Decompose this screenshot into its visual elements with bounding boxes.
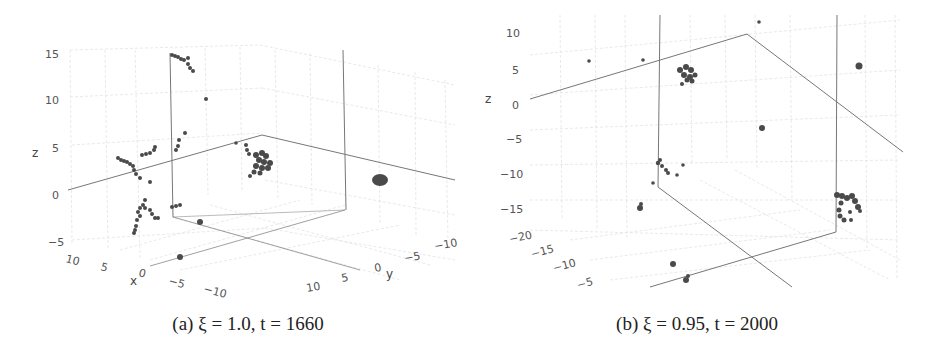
svg-text:−5: −5 [167,274,186,291]
z-axis-label: z [32,146,38,160]
svg-text:10: 10 [64,252,81,268]
z-axis-label: z [485,92,491,106]
z-axis-ticks: 15 10 5 0 −5 z [32,48,64,249]
y-axis-label: y [386,267,393,281]
caption-b: (b) ξ = 0.95, t = 2000 [470,313,924,335]
z-axis-ticks: 10 5 0 −5 −10 −15 −20 z [485,27,533,246]
svg-text:5: 5 [99,260,109,274]
axis-lines [530,15,903,287]
x-axis-label: x [130,274,137,288]
svg-text:−15: −15 [529,242,555,261]
scatter-3d-plot-b: 10 5 0 −5 −10 −15 −20 z −15 −10 −5 [470,0,938,300]
plot-panel-a: 15 10 5 0 −5 z 10 5 0 x −5 −10 10 5 0 y … [0,0,470,300]
gridlines [530,15,900,280]
y-axis-ticks: 10 5 0 y −5 −10 [305,236,458,295]
svg-text:−20: −20 [508,228,533,246]
svg-text:0: 0 [137,266,147,280]
caption-a: (a) ξ = 1.0, t = 1660 [0,313,496,335]
plot-panel-b: 10 5 0 −5 −10 −15 −20 z −15 −10 −5 [470,0,938,300]
svg-text:0: 0 [512,99,519,112]
svg-text:5: 5 [340,271,349,285]
svg-text:−10: −10 [202,282,228,300]
svg-text:15: 15 [45,48,59,61]
svg-text:−10: −10 [433,236,458,253]
svg-text:−5: −5 [506,133,522,146]
svg-text:5: 5 [52,142,59,155]
svg-text:−10: −10 [500,168,523,181]
svg-text:−5: −5 [403,249,421,265]
svg-text:0: 0 [52,189,59,202]
svg-text:−10: −10 [551,256,577,275]
x-axis-ticks: −15 −10 −5 [529,242,594,292]
svg-text:−5: −5 [575,275,594,292]
svg-text:10: 10 [305,280,321,295]
svg-text:−5: −5 [48,236,64,249]
svg-text:−15: −15 [500,203,523,216]
svg-text:5: 5 [512,64,519,77]
x-axis-ticks: 10 5 0 x −5 −10 [64,252,228,300]
svg-text:10: 10 [506,27,520,40]
svg-text:0: 0 [373,261,382,275]
scatter-3d-plot-a: 15 10 5 0 −5 z 10 5 0 x −5 −10 10 5 0 y … [0,0,470,300]
svg-text:10: 10 [45,94,59,107]
